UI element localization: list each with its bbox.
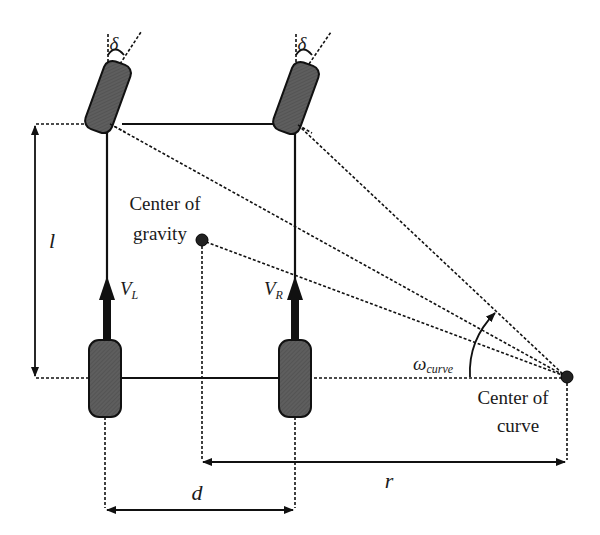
v-right-label: VR	[264, 278, 284, 302]
chassis	[107, 124, 295, 378]
center-of-curve-dot	[561, 371, 573, 383]
rear-left-wheel	[89, 340, 121, 417]
track-label: d	[192, 480, 204, 505]
v-left-label: VL	[120, 278, 139, 302]
coc-label-line1: Center of	[477, 387, 549, 408]
radius-label: r	[385, 468, 394, 493]
dimension-arrows	[35, 126, 565, 510]
cog-label-line2: gravity	[133, 223, 187, 244]
delta-right-label: δ	[298, 33, 308, 54]
kinematics-diagram: δ δ l d r Center of gravity Center of cu…	[0, 0, 600, 535]
wheelbase-label: l	[49, 228, 55, 253]
v-right-arrow	[287, 276, 303, 342]
coc-label-line2: curve	[497, 415, 539, 436]
delta-arcs	[108, 50, 312, 56]
v-left-arrow	[99, 276, 115, 342]
center-of-gravity-dot	[196, 234, 208, 246]
front-right-wheel	[271, 59, 322, 136]
rear-right-wheel	[279, 340, 311, 417]
omega-curve-arc	[470, 313, 495, 377]
delta-left-label: δ	[110, 33, 120, 54]
omega-curve-label: ωcurve	[413, 353, 454, 376]
cog-label-line1: Center of	[129, 193, 201, 214]
